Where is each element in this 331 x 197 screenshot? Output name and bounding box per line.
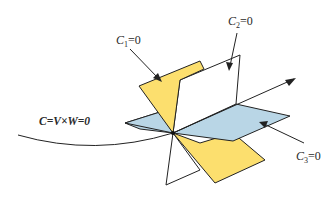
c3-leader-line bbox=[264, 124, 304, 143]
label-cross-product: C=V×W=0 bbox=[39, 116, 90, 128]
intersection-curve bbox=[18, 133, 173, 146]
c1-leader-line bbox=[130, 49, 158, 78]
direction-arrowhead bbox=[285, 78, 296, 86]
c1-var: C bbox=[116, 33, 124, 47]
constraint-planes-diagram: C1=0 C2=0 C3=0 C=V×W=0 bbox=[0, 0, 331, 197]
label-c2: C2=0 bbox=[228, 15, 253, 30]
c3-eq: =0 bbox=[308, 149, 321, 163]
c1-eq: =0 bbox=[128, 33, 141, 47]
intersection-point bbox=[171, 131, 175, 135]
label-c1: C1=0 bbox=[116, 34, 141, 49]
c2-var: C bbox=[228, 14, 236, 28]
c2-eq: =0 bbox=[240, 14, 253, 28]
label-c3: C3=0 bbox=[296, 150, 321, 165]
c3-var: C bbox=[296, 149, 304, 163]
diagram-canvas bbox=[0, 0, 331, 197]
